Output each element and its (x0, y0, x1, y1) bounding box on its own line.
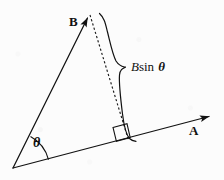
projection-b-symbol: B (131, 59, 139, 74)
projection-theta-symbol: θ (154, 59, 165, 74)
vector-b-arrow (13, 18, 88, 168)
figure-canvas (0, 0, 224, 180)
angle-theta-label: θ (33, 136, 40, 150)
projection-length-label: Bsinθ (131, 60, 165, 73)
vector-projection-figure: B A θ Bsinθ (0, 0, 224, 180)
vector-a-label: A (189, 124, 198, 137)
dashed-perpendicular (90, 15, 129, 140)
vector-a-arrow (13, 117, 209, 169)
right-angle-marker (113, 124, 130, 142)
vector-b-label: B (69, 15, 78, 28)
brace (100, 14, 137, 142)
projection-sin-symbol: sin (139, 59, 154, 74)
